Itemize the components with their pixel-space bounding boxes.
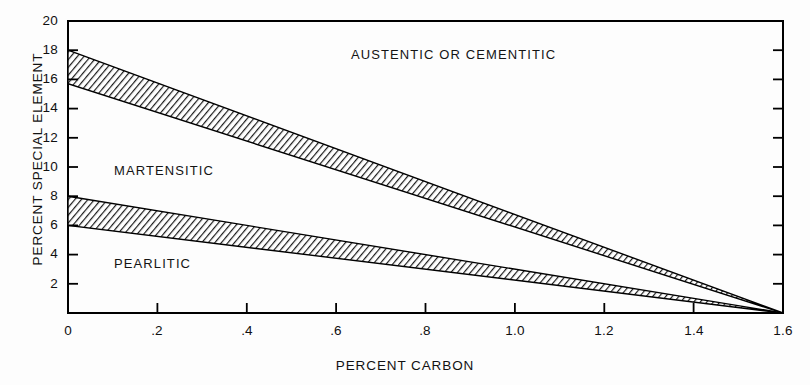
region-label-austentic: AUSTENTIC OR CEMENTITIC: [351, 47, 556, 62]
y-axis-title: PERCENT SPECIAL ELEMENT: [30, 53, 45, 266]
x-axis-title: PERCENT CARBON: [0, 358, 810, 373]
band-pearlite-martensite: [68, 196, 783, 313]
x-tick-label-0: 0: [46, 323, 90, 338]
x-tick-label-1-0: 1.0: [493, 323, 537, 338]
x-tick-label-1-2: 1.2: [582, 323, 626, 338]
x-axis-ticks: [157, 303, 693, 313]
x-tick-label-0-8: .8: [403, 323, 447, 338]
band-martensite-austenite: [68, 50, 783, 313]
x-tick-label-1-4: 1.4: [672, 323, 716, 338]
x-tick-label-1-6: 1.6: [761, 323, 805, 338]
x-tick-label-0-4: .4: [225, 323, 269, 338]
x-tick-label-0-6: .6: [314, 323, 358, 338]
chart-figure: 20 18 16 14 12 10 8 6 4 2 0 .2 .4 .6 .8 …: [0, 0, 810, 385]
region-label-martensitic: MARTENSITIC: [114, 163, 214, 178]
region-label-pearlitic: PEARLITIC: [114, 256, 191, 271]
right-axis-ticks: [773, 21, 783, 284]
x-tick-label-0-2: .2: [135, 323, 179, 338]
y-axis-title-wrapper: PERCENT SPECIAL ELEMENT: [28, 4, 46, 314]
